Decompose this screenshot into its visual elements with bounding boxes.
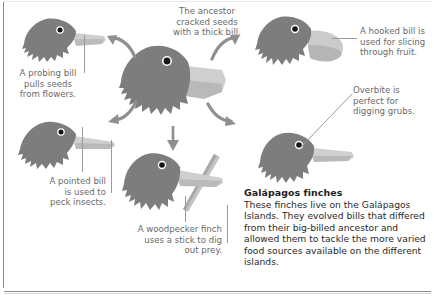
info-block: Galápagos finches These finches live on … (244, 187, 430, 267)
caption-overbite: Overbite is perfect for digging grubs. (353, 85, 427, 117)
caption-pointed: A pointed bill is used to peck insects. (26, 176, 106, 208)
info-body: These finches live on the Galápagos Isla… (244, 199, 430, 267)
leader-line-hooked (332, 38, 357, 39)
leader-line-woodpecker-inner (185, 196, 186, 222)
bird-woodpecker-finch (122, 148, 232, 224)
arrow-to-overbite-icon (206, 102, 238, 128)
caption-ancestor: The ancestor cracked seeds with a thick … (152, 6, 262, 38)
frame-top-rule (4, 1, 431, 2)
bird-probing-bill-finch (22, 13, 108, 69)
caption-probing: A probing bill pulls seeds from flowers. (11, 68, 85, 100)
arrow-to-probing-icon (105, 33, 137, 61)
leader-line-woodpecker-outer (227, 205, 228, 243)
bird-pointed-bill-finch (18, 116, 118, 174)
caption-woodpecker: A woodpecker finch uses a stick to dig o… (115, 224, 222, 256)
diagram-canvas: The ancestor cracked seeds with a thick … (0, 0, 434, 297)
frame-left-rule (3, 2, 4, 288)
arrow-to-woodpecker-icon (164, 126, 182, 152)
frame-bottom-rule-light (4, 293, 431, 294)
info-heading: Galápagos finches (244, 187, 430, 198)
leader-line-pointed-inner (82, 127, 83, 172)
arrow-to-pointed-icon (106, 100, 138, 126)
leader-line-overbite (298, 92, 354, 148)
frame-bottom-rule (4, 291, 431, 292)
caption-hooked: A hooked bill is used for slicing throug… (360, 26, 434, 58)
leader-line-pointed-outer (111, 140, 112, 193)
bird-hooked-bill-finch (255, 13, 349, 75)
